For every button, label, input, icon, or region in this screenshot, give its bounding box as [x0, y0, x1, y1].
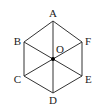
vertex-label-D: D — [49, 94, 57, 106]
vertex-label-C: C — [14, 73, 21, 85]
vertex-label-E: E — [85, 73, 92, 85]
hexagon-diagram: A F E D C B O — [0, 0, 100, 111]
vertex-label-F: F — [85, 35, 91, 47]
vertex-label-B: B — [14, 35, 21, 47]
vertex-label-A: A — [49, 7, 57, 19]
center-label-O: O — [56, 43, 64, 55]
center-point-O — [51, 57, 55, 61]
